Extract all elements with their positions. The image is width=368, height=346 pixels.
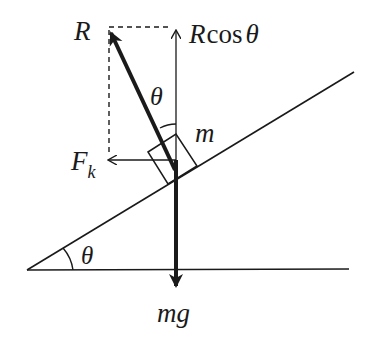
ground-line [27,269,349,270]
block-mass [148,134,197,184]
label-rcos-theta: Rcosθ [188,19,259,49]
label-weight: mg [157,298,190,328]
label-R: R [73,16,91,46]
reaction-angle-arc [160,124,176,128]
label-mass: m [195,118,215,148]
label-friction: Fk [70,146,97,182]
incline-angle-arc [63,248,73,270]
label-theta-incline: θ [81,242,93,269]
reaction-arrow [111,33,175,170]
free-body-diagram: R Rcosθ θ m Fk θ mg [0,0,368,346]
label-theta-block: θ [150,82,163,111]
